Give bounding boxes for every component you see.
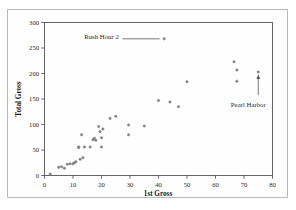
annotation-label: Rush Hour 2 — [84, 33, 119, 40]
data-point — [89, 146, 92, 149]
data-point — [97, 125, 100, 128]
plot-canvas: 01020304050607080 050100150200250300 Rus… — [0, 0, 296, 210]
x-tick-label: 80 — [269, 181, 276, 188]
data-point — [102, 128, 105, 131]
x-tick-label: 0 — [43, 181, 47, 188]
data-point — [82, 156, 85, 159]
y-axis-ticks: 050100150200250300 — [29, 19, 44, 179]
data-point — [69, 163, 72, 166]
y-tick-label: 0 — [36, 172, 40, 179]
data-point — [58, 166, 61, 169]
data-point — [49, 173, 52, 176]
data-point — [186, 80, 189, 83]
annotation-arrow-head — [256, 75, 260, 79]
data-point — [99, 130, 102, 133]
data-point-group — [49, 38, 260, 176]
annotation-label: Pearl Harbor — [231, 101, 267, 108]
x-axis-title: 1st Gross — [144, 190, 173, 198]
data-point — [95, 139, 98, 142]
data-point — [127, 133, 130, 136]
x-tick-label: 10 — [70, 181, 77, 188]
data-point — [169, 101, 172, 104]
data-point — [109, 117, 112, 120]
data-point — [157, 99, 160, 102]
data-point — [60, 166, 63, 169]
plot-frame-rect — [45, 23, 273, 176]
data-point — [115, 115, 118, 118]
y-tick-label: 150 — [29, 95, 40, 102]
data-point — [75, 160, 78, 163]
data-point — [236, 80, 239, 83]
data-point — [79, 158, 82, 161]
data-point — [127, 124, 130, 127]
data-point — [177, 105, 180, 108]
x-tick-label: 50 — [184, 181, 191, 188]
data-point — [143, 125, 146, 128]
y-axis-title: Total Gross — [15, 81, 23, 117]
y-tick-label: 50 — [32, 146, 39, 153]
x-axis-ticks: 01020304050607080 — [43, 176, 277, 188]
data-point — [100, 146, 103, 149]
x-tick-label: 70 — [241, 181, 248, 188]
data-point — [233, 61, 236, 64]
data-point — [163, 38, 166, 41]
y-tick-label: 100 — [29, 121, 40, 128]
x-tick-label: 60 — [212, 181, 219, 188]
data-point — [100, 137, 103, 140]
plot-frame — [45, 23, 273, 176]
annotation-group: Rush Hour 2Pearl Harbor — [84, 33, 266, 107]
y-tick-label: 250 — [29, 44, 40, 51]
scatter-plot-figure: 01020304050607080 050100150200250300 Rus… — [0, 0, 296, 210]
data-point — [83, 146, 86, 149]
data-point — [63, 167, 66, 170]
data-point — [236, 69, 239, 72]
y-tick-label: 200 — [29, 70, 40, 77]
y-tick-label: 300 — [29, 19, 40, 26]
data-point — [257, 71, 260, 74]
data-point — [77, 146, 80, 149]
data-point — [80, 133, 83, 136]
x-tick-label: 30 — [127, 181, 134, 188]
data-point — [66, 163, 69, 166]
x-tick-label: 20 — [98, 181, 105, 188]
x-tick-label: 40 — [155, 181, 162, 188]
